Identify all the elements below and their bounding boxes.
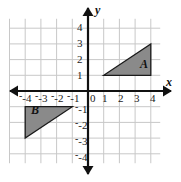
y-tick-label-2: 2 [77, 54, 83, 65]
y-tick-label--2: --2 [75, 120, 88, 131]
x-tick-label--4: --4 [19, 93, 32, 104]
axis-arrowhead [83, 7, 94, 16]
axis-arrowhead [9, 86, 18, 97]
x-tick-label-3: 3 [134, 93, 140, 104]
y-tick-label--3: --3 [75, 136, 88, 147]
x-tick-label-4: 4 [150, 93, 156, 104]
x-axis-label: x [166, 76, 172, 88]
y-tick-label--1: --1 [75, 104, 88, 115]
x-tick-label--2: --2 [51, 93, 64, 104]
y-tick-label--4: --4 [75, 152, 88, 163]
x-tick-label-2: 2 [118, 93, 124, 104]
shape-label-a: A [140, 58, 148, 70]
shape-label-b: B [31, 104, 39, 116]
y-tick-label-3: 3 [77, 38, 83, 49]
x-tick-label-0: 0 [90, 93, 96, 104]
plot-canvas [0, 0, 181, 182]
y-tick-label-4: 4 [77, 22, 83, 33]
y-axis-label: y [95, 4, 100, 16]
coordinate-plane-diagram: --4 --3 --2 --1 0 1 2 3 4 4 3 2 1 --1 --… [0, 0, 181, 182]
y-tick-label-1: 1 [77, 70, 83, 81]
axis-arrowhead [83, 166, 94, 175]
x-tick-label-1: 1 [102, 93, 108, 104]
